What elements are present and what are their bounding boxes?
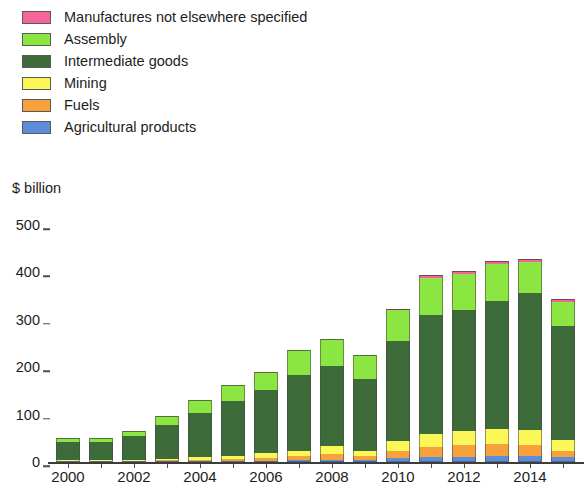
bar-segment	[320, 446, 344, 454]
x-axis-tick-label: 2012	[447, 468, 480, 485]
bar-segment	[419, 447, 443, 457]
bar-segment	[485, 456, 509, 462]
bar-segment	[254, 372, 278, 390]
chart-bar[interactable]	[518, 259, 542, 462]
bar-segment	[386, 458, 410, 462]
bar-segment	[518, 445, 542, 456]
chart-plot-area: 5004003002001000 20002002200420062008201…	[0, 0, 584, 494]
bar-segment	[518, 262, 542, 293]
bar-segment	[254, 461, 278, 462]
x-axis-tick-mark	[563, 463, 564, 468]
bar-segment	[353, 355, 377, 379]
chart-bar[interactable]	[353, 355, 377, 462]
y-axis-tick-mark	[43, 228, 50, 230]
y-axis-tick-mark	[43, 323, 50, 325]
y-axis-tick-label: 400	[0, 264, 40, 280]
bar-segment	[221, 461, 245, 462]
bar-segment	[452, 274, 476, 310]
bar-segment	[122, 461, 146, 462]
chart-bar[interactable]	[320, 339, 344, 462]
chart-bar[interactable]	[188, 400, 212, 462]
bar-segment	[518, 430, 542, 445]
bar-segment	[287, 460, 311, 462]
y-axis-tick-label: 100	[0, 407, 40, 423]
bar-segment	[419, 278, 443, 315]
chart-bar[interactable]	[287, 350, 311, 462]
x-axis-tick-mark	[497, 463, 498, 468]
x-axis-tick-mark	[365, 463, 366, 468]
y-axis-tick-label: 0	[0, 454, 40, 470]
x-axis-tick-label: 2004	[183, 468, 216, 485]
bar-segment	[551, 457, 575, 462]
chart-bar[interactable]	[551, 299, 575, 462]
bar-segment	[122, 436, 146, 460]
y-axis-tick-label: 300	[0, 312, 40, 328]
chart-bar[interactable]	[452, 271, 476, 462]
bar-segment	[452, 445, 476, 456]
bar-segment	[386, 441, 410, 451]
chart-bar[interactable]	[89, 438, 113, 462]
bar-segment	[155, 425, 179, 458]
y-axis-tick-mark	[43, 276, 50, 278]
chart-bar[interactable]	[122, 431, 146, 462]
bar-segment	[56, 461, 80, 462]
bar-segment	[386, 341, 410, 441]
x-axis-tick-label: 2010	[381, 468, 414, 485]
y-axis-tick-label: 200	[0, 359, 40, 375]
bar-segment	[551, 302, 575, 327]
bar-segment	[89, 442, 113, 460]
bar-segment	[386, 451, 410, 459]
chart-bar[interactable]	[386, 309, 410, 462]
bar-segment	[452, 431, 476, 446]
y-axis-tick-mark	[43, 370, 50, 372]
bar-segment	[485, 301, 509, 429]
x-axis-tick-label: 2008	[315, 468, 348, 485]
bar-segment	[485, 429, 509, 445]
bar-segment	[56, 442, 80, 460]
y-axis-tick-label: 500	[0, 217, 40, 233]
bar-segment	[419, 434, 443, 447]
x-axis-line	[48, 462, 584, 464]
y-axis-tick-mark	[43, 418, 50, 420]
bar-segment	[551, 440, 575, 450]
x-axis-tick-mark	[101, 463, 102, 468]
bar-segment	[485, 264, 509, 301]
y-axis-tick-mark	[43, 465, 50, 467]
chart-bar[interactable]	[221, 385, 245, 462]
bar-segment	[188, 461, 212, 462]
bar-segment	[155, 416, 179, 425]
bar-segment	[287, 350, 311, 375]
bar-segment	[452, 310, 476, 431]
x-axis-tick-label: 2002	[117, 468, 150, 485]
x-axis-tick-label: 2006	[249, 468, 282, 485]
chart-bar[interactable]	[254, 372, 278, 462]
chart-bar[interactable]	[56, 438, 80, 462]
bar-segment	[551, 451, 575, 458]
bar-segment	[485, 444, 509, 456]
bar-segment	[551, 326, 575, 440]
bar-segment	[320, 339, 344, 366]
bar-segment	[320, 366, 344, 447]
bar-segment	[419, 315, 443, 434]
chart-bar[interactable]	[155, 416, 179, 462]
bar-segment	[320, 460, 344, 462]
x-axis-tick-label: 2014	[513, 468, 546, 485]
bar-segment	[353, 379, 377, 451]
bar-segment	[89, 461, 113, 462]
x-axis-tick-label: 2000	[51, 468, 84, 485]
bar-segment	[452, 457, 476, 462]
chart-bar[interactable]	[419, 275, 443, 462]
chart-bar[interactable]	[485, 261, 509, 462]
bar-segment	[518, 293, 542, 430]
bar-segment	[155, 461, 179, 462]
bar-segment	[287, 375, 311, 451]
x-axis-tick-mark	[167, 463, 168, 468]
bar-segment	[188, 400, 212, 412]
bar-segment	[386, 310, 410, 341]
bar-segment	[221, 401, 245, 456]
x-axis-tick-mark	[431, 463, 432, 468]
x-axis-tick-mark	[233, 463, 234, 468]
bar-segment	[188, 413, 212, 458]
bar-segment	[518, 456, 542, 462]
bar-segment	[221, 385, 245, 402]
